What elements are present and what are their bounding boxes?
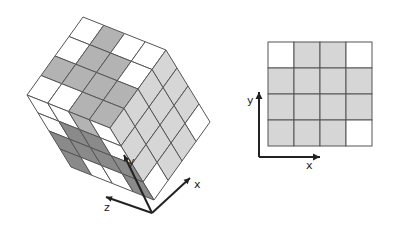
- grid-cell: [294, 42, 320, 68]
- z-axis-label: z: [104, 201, 110, 214]
- grid-cell: [320, 42, 346, 68]
- voxel-cube: [27, 17, 210, 200]
- arrowhead-icon: [313, 154, 320, 161]
- grid-cell: [294, 120, 320, 146]
- grid-cell: [268, 68, 294, 94]
- grid-cell: [346, 42, 372, 68]
- grid-cell: [346, 120, 372, 146]
- grid-cell: [320, 68, 346, 94]
- grid-cell: [268, 120, 294, 146]
- grid-cell: [268, 94, 294, 120]
- arrowhead-icon: [256, 92, 263, 99]
- projection-grid: [268, 42, 372, 146]
- diagram-canvas: xyz xy: [0, 0, 394, 229]
- grid-cell: [268, 42, 294, 68]
- grid-cell: [320, 120, 346, 146]
- y-axis-label: y: [247, 94, 254, 107]
- grid-cell: [320, 94, 346, 120]
- grid-cell: [294, 68, 320, 94]
- y-axis-label: y: [128, 155, 135, 168]
- x-axis-label: x: [194, 178, 201, 191]
- grid-cell: [294, 94, 320, 120]
- x-axis-label: x: [306, 159, 313, 172]
- grid-cell: [346, 68, 372, 94]
- grid-cell: [346, 94, 372, 120]
